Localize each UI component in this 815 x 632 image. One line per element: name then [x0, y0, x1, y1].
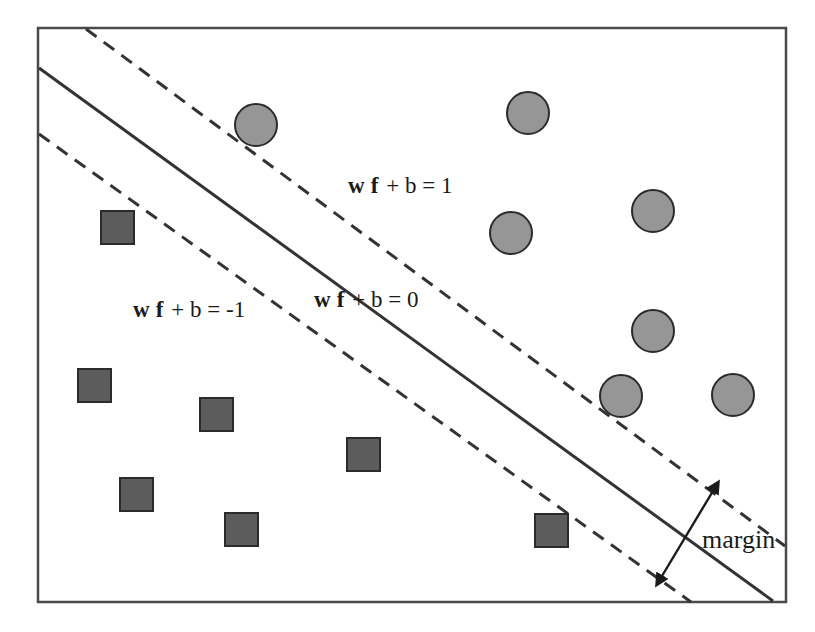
circle-point — [712, 374, 754, 416]
lower-boundary-label-w: w — [133, 297, 150, 322]
circle-point — [632, 310, 674, 352]
upper-boundary-label-w: w — [348, 173, 365, 198]
circle-point — [600, 375, 642, 417]
decision-boundary-label: wf+ b = 0 — [314, 287, 419, 312]
circle-point — [490, 212, 532, 254]
decision-boundary-label-rest: + b = 0 — [352, 287, 418, 312]
circle-point — [632, 190, 674, 232]
circle-point — [235, 104, 277, 146]
square-point — [347, 438, 380, 471]
circle-point — [507, 92, 549, 134]
upper-boundary-label-f: f — [371, 173, 379, 198]
lower-boundary-label-f: f — [156, 297, 164, 322]
square-point — [101, 211, 134, 244]
decision-boundary-label-f: f — [337, 287, 345, 312]
lower-boundary-label-rest: + b = -1 — [171, 297, 245, 322]
square-point — [200, 398, 233, 431]
square-point — [120, 478, 153, 511]
square-point — [78, 369, 111, 402]
plot-frame — [38, 28, 786, 602]
square-point — [225, 513, 258, 546]
svm-diagram-canvas: wf+ b = 1 wf+ b = 0 wf+ b = -1 margin — [0, 0, 815, 632]
square-point — [535, 514, 568, 547]
decision-boundary-label-w: w — [314, 287, 331, 312]
svm-margin-figure: wf+ b = 1 wf+ b = 0 wf+ b = -1 margin — [0, 0, 815, 632]
margin-label: margin — [702, 525, 775, 554]
upper-boundary-label: wf+ b = 1 — [348, 173, 453, 198]
upper-boundary-label-rest: + b = 1 — [386, 173, 452, 198]
